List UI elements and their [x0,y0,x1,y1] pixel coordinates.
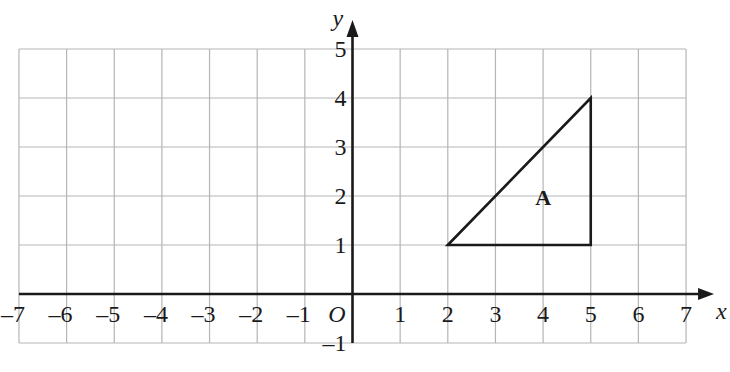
y-tick-label: 5 [335,36,347,62]
y-tick-label: 4 [335,85,347,111]
y-tick-label: –1 [322,330,347,356]
x-tick-label: –4 [143,301,168,327]
x-tick-label: –3 [191,301,216,327]
y-axis-label: y [331,5,344,31]
x-axis-arrow-icon [698,288,714,300]
x-tick-label: 6 [632,301,644,327]
x-tick-label: –5 [95,301,120,327]
triangle-a [448,98,591,245]
x-tick-label: –1 [286,301,311,327]
x-axis-label: x [715,298,727,324]
x-tick-label: –6 [48,301,73,327]
y-tick-label: 2 [335,183,347,209]
x-tick-label: 5 [585,301,597,327]
y-tick-label: 3 [335,134,347,160]
tick-labels: –7–6–5–4–3–2–11234567–112345Oxy [0,5,727,356]
origin-label: O [328,301,345,327]
x-tick-label: –7 [0,301,25,327]
y-tick-label: 1 [335,232,347,258]
shapes: A [448,98,591,245]
coordinate-grid-figure: A –7–6–5–4–3–2–11234567–112345Oxy [0,0,730,372]
y-axis-arrow-icon [347,20,359,37]
x-tick-label: 2 [442,301,454,327]
shape-label-a: A [535,185,551,210]
x-tick-label: –2 [238,301,263,327]
axes [19,20,714,343]
x-tick-label: 1 [394,301,406,327]
x-tick-label: 4 [537,301,549,327]
x-tick-label: 3 [489,301,501,327]
x-tick-label: 7 [680,301,692,327]
